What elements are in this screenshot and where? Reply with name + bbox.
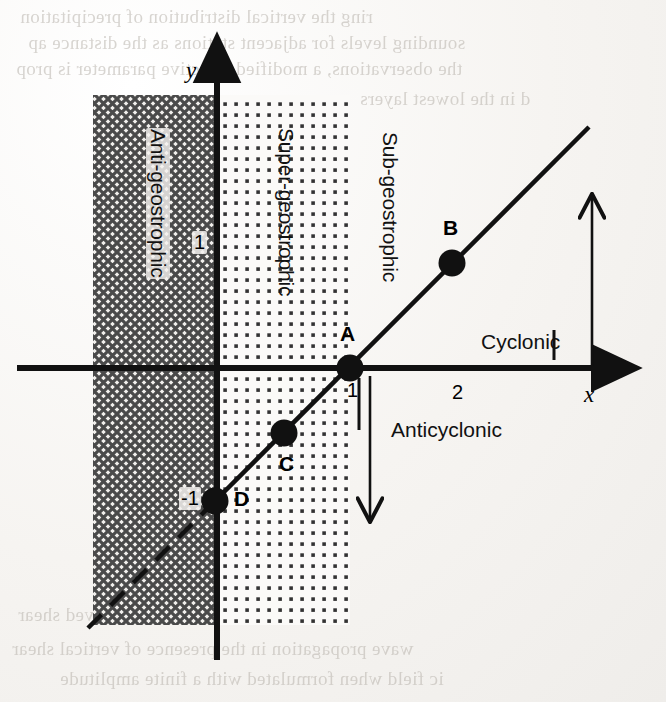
x-tick-label-2: 2: [452, 381, 463, 404]
data-point-a[interactable]: [337, 355, 364, 382]
region-label-super-geostrophic: Super-geostrophic: [274, 128, 298, 296]
y-tick-label-minus-1: -1: [179, 487, 201, 510]
flow-label-cyclonic: Cyclonic: [481, 330, 560, 354]
point-label-d: D: [234, 487, 249, 511]
x-axis-label: x: [584, 382, 594, 408]
regime-diagram: Anti-geostrophic Super-geostrophic Sub-g…: [0, 0, 666, 702]
y-tick-label-1: 1: [192, 231, 207, 254]
point-label-b: B: [443, 216, 458, 240]
point-label-a: A: [340, 322, 355, 346]
flow-label-anticyclonic: Anticyclonic: [391, 418, 502, 442]
diagram-canvas: [0, 0, 666, 702]
point-label-c: C: [279, 452, 294, 476]
data-point-c[interactable]: [271, 420, 298, 447]
x-tick-label-1: 1: [347, 379, 358, 402]
data-point-b[interactable]: [439, 250, 466, 277]
region-label-anti-geostrophic: Anti-geostrophic: [146, 128, 170, 279]
figure-page: ring the vertical distribution of precip…: [0, 0, 666, 702]
data-point-d[interactable]: [202, 488, 229, 515]
y-axis-label: y: [186, 58, 196, 84]
region-label-sub-geostrophic: Sub-geostrophic: [378, 132, 402, 282]
